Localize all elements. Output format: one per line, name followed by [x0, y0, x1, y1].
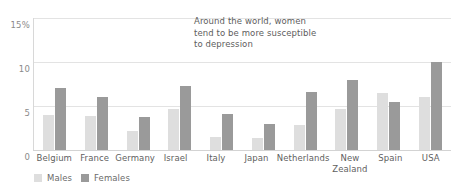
bar-males[interactable]	[294, 125, 305, 150]
x-axis-label: Belgium	[34, 153, 74, 174]
legend-swatch-females-icon	[81, 174, 89, 182]
bar-males[interactable]	[85, 116, 96, 150]
legend-item-males[interactable]: Males	[34, 173, 72, 183]
bar-males[interactable]	[43, 115, 54, 150]
bar-females[interactable]	[264, 124, 275, 150]
x-axis-label: France	[74, 153, 114, 174]
x-axis-label: Japan	[236, 153, 276, 174]
x-axis-label: Germany	[115, 153, 155, 174]
bar-females[interactable]	[139, 117, 150, 150]
bar-females[interactable]	[222, 114, 233, 150]
bar-group	[326, 18, 368, 150]
legend: Males Females	[34, 173, 130, 183]
x-axis-label: Netherlands	[277, 153, 330, 174]
bar-males[interactable]	[210, 137, 221, 150]
bar-females[interactable]	[431, 62, 442, 150]
bar-males[interactable]	[252, 138, 263, 150]
y-tick-15: 15%	[11, 20, 31, 30]
bar-group	[368, 18, 410, 150]
x-axis-labels: BelgiumFranceGermanyIsraelItalyJapanNeth…	[34, 153, 451, 174]
legend-item-females[interactable]: Females	[81, 173, 130, 183]
bar-males[interactable]	[127, 131, 138, 150]
legend-label-males: Males	[47, 173, 72, 183]
bar-females[interactable]	[306, 92, 317, 150]
bar-males[interactable]	[419, 97, 430, 150]
bar-females[interactable]	[55, 88, 66, 150]
x-axis-label: Italy	[196, 153, 236, 174]
x-axis-label: Israel	[155, 153, 195, 174]
legend-swatch-males-icon	[34, 174, 42, 182]
y-tick-5: 5	[24, 108, 30, 118]
bar-males[interactable]	[168, 109, 179, 150]
bar-females[interactable]	[180, 86, 191, 150]
bar-group	[117, 18, 159, 150]
x-axis-label: NewZealand	[330, 153, 370, 174]
bar-females[interactable]	[347, 80, 358, 150]
x-axis-label: Spain	[370, 153, 410, 174]
legend-label-females: Females	[94, 173, 130, 183]
y-tick-10: 10	[19, 64, 30, 74]
chart-annotation: Around the world, women tend to be more …	[194, 16, 316, 51]
bar-females[interactable]	[97, 97, 108, 150]
bar-group	[76, 18, 118, 150]
bar-group	[34, 18, 76, 150]
y-tick-0: 0	[24, 152, 30, 162]
bar-group	[409, 18, 451, 150]
bar-males[interactable]	[377, 93, 388, 150]
depression-by-gender-bar-chart: 15% 10 5 0 BelgiumFranceGermanyIsraelIta…	[0, 0, 459, 191]
x-axis-label: USA	[411, 153, 451, 174]
x-axis-line	[33, 150, 451, 151]
bar-females[interactable]	[389, 102, 400, 150]
bar-males[interactable]	[335, 109, 346, 150]
